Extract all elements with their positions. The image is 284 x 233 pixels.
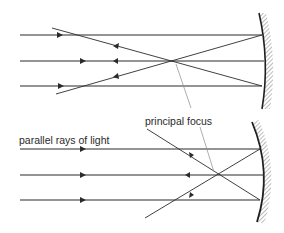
bottom-reflected-ray-1	[145, 149, 260, 218]
top-diagram	[20, 13, 273, 109]
top-reflected-ray-3	[52, 28, 262, 86]
parallel-rays-label: parallel rays of light	[19, 135, 109, 146]
concave-mirror-diagram	[0, 0, 284, 233]
arrow-right-icon	[57, 32, 63, 38]
arrow-right-icon	[80, 172, 86, 178]
arrow-right-icon	[58, 83, 64, 89]
arrow-right-icon	[80, 58, 86, 64]
bottom-reflected-ray-3	[147, 129, 260, 200]
arrow-left-icon	[113, 73, 119, 79]
arrow-left-icon	[185, 172, 190, 178]
bottom-mirror-hatching	[252, 120, 271, 224]
principal-focus-label: principal focus	[145, 116, 212, 127]
arrow-left-icon	[189, 192, 194, 198]
top-reflected-ray-1	[56, 35, 262, 94]
arrow-right-icon	[80, 197, 86, 203]
arrow-left-icon	[113, 58, 118, 64]
arrow-left-icon	[113, 43, 119, 49]
arrow-right-icon	[80, 146, 86, 152]
